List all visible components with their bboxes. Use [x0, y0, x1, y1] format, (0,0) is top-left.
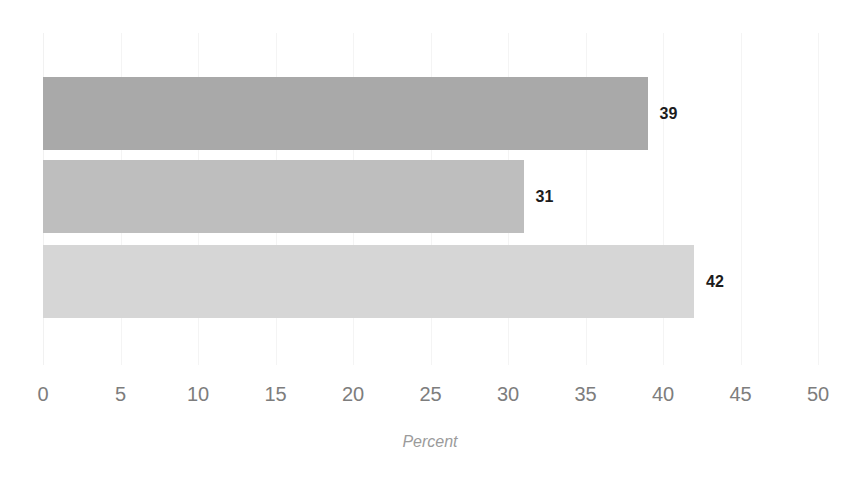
- x-tick-label: 15: [264, 383, 286, 406]
- bar-value-label: 39: [660, 105, 678, 123]
- gridline: [818, 33, 819, 365]
- x-tick-label: 40: [652, 383, 674, 406]
- x-tick-label: 35: [574, 383, 596, 406]
- x-tick-label: 10: [187, 383, 209, 406]
- x-axis-tick-labels: 05101520253035404550: [0, 383, 860, 409]
- bar: [43, 77, 648, 150]
- plot-area: 393142: [43, 33, 818, 365]
- x-tick-label: 25: [419, 383, 441, 406]
- x-tick-label: 50: [807, 383, 829, 406]
- x-axis-title: Percent: [0, 433, 860, 451]
- bar-value-label: 42: [706, 273, 724, 291]
- x-tick-label: 45: [729, 383, 751, 406]
- bar: [43, 245, 694, 318]
- bar-row: 39: [43, 77, 818, 150]
- bar-value-label: 31: [536, 188, 554, 206]
- x-tick-label: 20: [342, 383, 364, 406]
- x-tick-label: 5: [115, 383, 126, 406]
- bar: [43, 160, 524, 233]
- x-tick-label: 30: [497, 383, 519, 406]
- bar-row: 42: [43, 245, 818, 318]
- x-tick-label: 0: [37, 383, 48, 406]
- bar-chart: 393142 05101520253035404550 Percent: [0, 0, 860, 479]
- bar-row: 31: [43, 160, 818, 233]
